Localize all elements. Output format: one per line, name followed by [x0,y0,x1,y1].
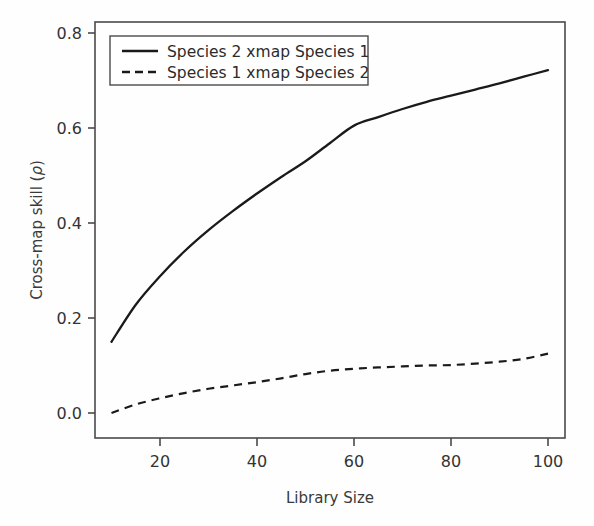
x-axis-ticks [160,438,548,446]
x-tick-label-4: 100 [533,452,564,471]
chart-page: 0.8 0.6 0.4 0.2 0.0 20 40 60 80 100 Libr… [0,0,594,526]
legend-label-0: Species 2 xmap Species 1 [167,43,369,61]
y-axis-title: Cross-map skill (ρ) [28,160,46,300]
x-tick-label-0: 20 [150,452,170,471]
y-tick-label-0: 0.0 [57,404,82,423]
legend-label-1: Species 1 xmap Species 2 [167,64,369,82]
series-line-species-2-xmap-species-1 [112,70,549,342]
cross-map-skill-chart: 0.8 0.6 0.4 0.2 0.0 20 40 60 80 100 Libr… [0,0,594,526]
x-tick-label-1: 40 [247,452,267,471]
y-axis-title-prefix: Cross-map skill ( [28,176,46,300]
y-tick-label-3: 0.6 [57,119,82,138]
series-line-species-1-xmap-species-2 [112,354,549,413]
x-tick-label-3: 80 [441,452,461,471]
x-axis-tick-labels: 20 40 60 80 100 [150,452,563,471]
data-series-layer [112,70,549,413]
y-tick-label-2: 0.4 [57,214,82,233]
y-axis-ticks [88,33,95,413]
y-axis-title-suffix: ) [28,160,46,166]
rho-symbol: ρ [28,166,46,176]
y-axis-tick-labels: 0.8 0.6 0.4 0.2 0.0 [57,24,82,423]
x-axis-title: Library Size [286,489,374,507]
legend: Species 2 xmap Species 1 Species 1 xmap … [110,36,369,85]
y-tick-label-4: 0.8 [57,24,82,43]
y-tick-label-1: 0.2 [57,309,82,328]
x-tick-label-2: 60 [344,452,364,471]
